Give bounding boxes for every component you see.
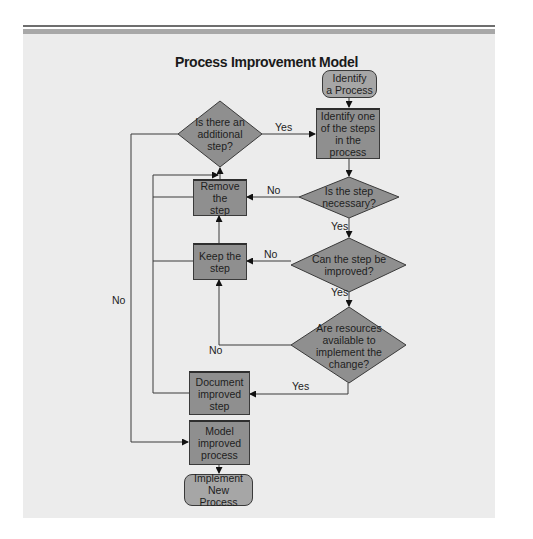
edge-label-necessary-no: No	[267, 184, 280, 196]
remove-step-node: Remove the step	[193, 179, 247, 216]
edge-label-resources-yes: Yes	[292, 380, 309, 392]
additional-step-label: Is there an additional step?	[185, 112, 255, 156]
flow-connectors	[0, 0, 533, 539]
edge-label-improve-yes: Yes	[331, 286, 348, 298]
identify-step-node: Identify one of the steps in the process	[316, 108, 380, 159]
can-improve-label: Can the step be improved?	[300, 251, 398, 279]
edge-label-resources-no: No	[209, 344, 222, 356]
edge-label-necessary-yes: Yes	[331, 220, 348, 232]
resources-label: Are resources available to implement the…	[305, 320, 393, 372]
start-node: Identify a Process	[322, 70, 377, 98]
end-node: Implement New Process	[184, 474, 253, 506]
edge-label-additional-yes: Yes	[275, 121, 292, 133]
step-necessary-label: Is the step necessary?	[309, 183, 389, 211]
edge-label-additional-no: No	[112, 294, 125, 306]
keep-step-node: Keep the step	[193, 243, 247, 280]
document-step-node: Document improved step	[189, 371, 250, 415]
model-process-node: Model improved process	[189, 420, 250, 465]
edge-label-improve-no: No	[264, 248, 277, 260]
